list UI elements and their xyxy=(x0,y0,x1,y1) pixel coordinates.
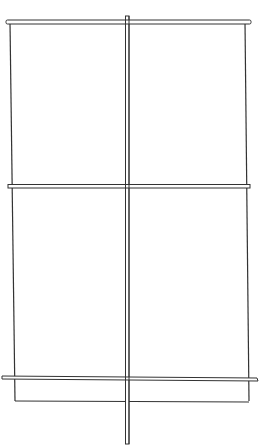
bottom-frame-edge xyxy=(15,401,249,402)
lower-bar xyxy=(2,376,258,381)
frame-diagram xyxy=(0,0,263,448)
right-frame-edge xyxy=(245,22,249,401)
left-frame-edge xyxy=(10,22,15,401)
